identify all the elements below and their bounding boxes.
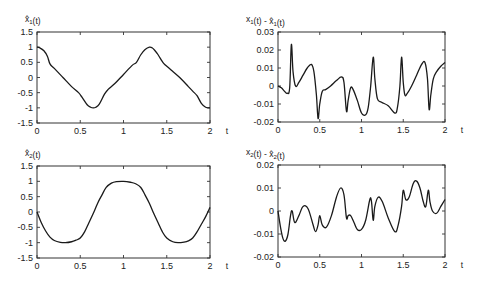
data-series-line xyxy=(37,181,210,242)
y-tick-label: 0.03 xyxy=(256,27,274,37)
y-tick-label: 1 xyxy=(28,42,33,52)
y-tick-label: 0.02 xyxy=(256,160,274,170)
x-axis-label: t xyxy=(226,126,229,136)
x-tick-label: 0.5 xyxy=(74,126,87,136)
x-axis-label: t xyxy=(461,260,464,270)
y-tick-label: 0 xyxy=(269,81,274,91)
y-tick-label: 0 xyxy=(28,207,33,217)
x-tick-label: 1.5 xyxy=(397,125,410,135)
y-tick-label: -1.5 xyxy=(17,253,33,263)
plot-error2: 00.511.52t0.020.010-0.01-0.02x2(t) - x̂2… xyxy=(246,147,464,270)
plot-frame xyxy=(278,32,445,122)
y-tick-label: 1.5 xyxy=(20,27,33,37)
y-tick-label: 1.5 xyxy=(20,161,33,171)
x-tick-label: 2 xyxy=(442,125,447,135)
y-tick-label: -1.5 xyxy=(17,118,33,128)
y-tick-label: -0.02 xyxy=(253,252,274,262)
x-axis-label: t xyxy=(461,125,464,135)
x-tick-label: 1 xyxy=(121,261,126,271)
y-tick-label: 0.02 xyxy=(256,45,274,55)
plot-frame xyxy=(37,166,210,258)
x-tick-label: 1 xyxy=(359,260,364,270)
y-tick-label: 0 xyxy=(269,206,274,216)
x-tick-label: 0.5 xyxy=(313,260,326,270)
y-tick-label: 0.01 xyxy=(256,63,274,73)
data-series-line xyxy=(278,44,445,118)
y-tick-label: -0.5 xyxy=(17,88,33,98)
y-tick-label: 0.01 xyxy=(256,183,274,193)
x-tick-label: 2 xyxy=(207,126,212,136)
x-tick-label: 1.5 xyxy=(397,260,410,270)
x-tick-label: 1 xyxy=(121,126,126,136)
y-tick-label: 0.5 xyxy=(20,57,33,67)
x-tick-label: 0 xyxy=(34,126,39,136)
x-tick-label: 1 xyxy=(359,125,364,135)
plot-xhat2: 00.511.52t1.510.50-0.5-1-1.5x̂2(t) xyxy=(17,148,228,271)
x-tick-label: 0.5 xyxy=(74,261,87,271)
data-series-line xyxy=(278,181,445,242)
y-tick-label: -0.02 xyxy=(253,117,274,127)
x-tick-label: 0.5 xyxy=(313,125,326,135)
y-axis-label: x1(t) - x̂1(t) xyxy=(246,14,285,28)
y-tick-label: -1 xyxy=(25,238,33,248)
x-tick-label: 0 xyxy=(34,261,39,271)
y-tick-label: -0.5 xyxy=(17,222,33,232)
y-tick-label: -0.01 xyxy=(253,229,274,239)
x-tick-label: 2 xyxy=(442,260,447,270)
x-tick-label: 1.5 xyxy=(160,126,173,136)
y-tick-label: -1 xyxy=(25,103,33,113)
plot-xhat1: 00.511.52t1.510.50-0.5-1-1.5x̂1(t) xyxy=(17,14,228,136)
x-tick-label: 2 xyxy=(207,261,212,271)
y-tick-label: 0.5 xyxy=(20,192,33,202)
x-axis-label: t xyxy=(226,261,229,271)
y-tick-label: 1 xyxy=(28,176,33,186)
figure: 00.511.52t1.510.50-0.5-1-1.5x̂1(t) 00.51… xyxy=(0,0,478,285)
y-axis-label: x̂2(t) xyxy=(25,148,41,160)
x-tick-label: 0 xyxy=(275,125,280,135)
y-axis-label: x2(t) - x̂2(t) xyxy=(246,147,285,161)
y-tick-label: 0 xyxy=(28,73,33,83)
x-tick-label: 0 xyxy=(275,260,280,270)
plot-frame xyxy=(278,165,445,257)
y-axis-label: x̂1(t) xyxy=(25,14,41,26)
plot-error1: 00.511.52t0.030.020.010-0.01-0.02x1(t) -… xyxy=(246,14,464,135)
x-tick-label: 1.5 xyxy=(160,261,173,271)
y-tick-label: -0.01 xyxy=(253,99,274,109)
data-series-line xyxy=(37,47,210,108)
